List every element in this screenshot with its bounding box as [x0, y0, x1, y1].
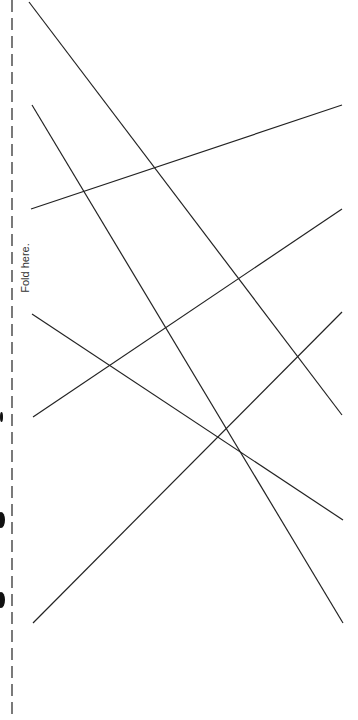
worksheet: Fold here.	[0, 0, 358, 720]
line-4	[32, 314, 343, 520]
line-6	[33, 312, 342, 623]
punch-hole-mark	[0, 412, 3, 422]
fold-here-label: Fold here.	[19, 243, 31, 293]
line-5	[33, 209, 342, 417]
line-1	[29, 2, 342, 415]
line-2	[32, 105, 343, 623]
line-drawing	[0, 0, 358, 720]
crossing-lines	[29, 2, 343, 623]
line-3	[31, 105, 342, 209]
